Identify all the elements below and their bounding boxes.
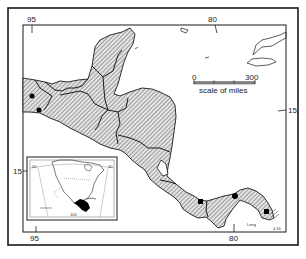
- inset-edge-label-bottom: 100: [70, 212, 77, 217]
- inset-locator-map: 40 40 100: [27, 157, 117, 220]
- lon-label-top-95: 95: [27, 15, 36, 24]
- plate-number: 4.16: [273, 226, 282, 231]
- lat-label-right-15: 15: [288, 106, 297, 115]
- scale-start-label: 0: [192, 73, 197, 82]
- locality-dot: [264, 209, 269, 214]
- scale-end-label: 300: [245, 73, 259, 82]
- map-credit: Long: [247, 222, 256, 227]
- locality-dot: [37, 108, 42, 113]
- scale-caption: scale of miles: [199, 86, 247, 95]
- inset-edge-label-right: 40: [108, 164, 113, 169]
- range-map: 95 80 95 80 15 15: [0, 0, 306, 259]
- locality-dot: [30, 94, 35, 99]
- lon-label-bottom-95: 95: [30, 234, 39, 243]
- lat-label-left-15: 15: [13, 167, 22, 176]
- inset-edge-label-left: 40: [32, 164, 37, 169]
- lon-label-top-80: 80: [208, 15, 217, 24]
- locality-dot: [232, 193, 238, 199]
- lon-label-bottom-80: 80: [229, 234, 238, 243]
- locality-dot: [198, 199, 203, 204]
